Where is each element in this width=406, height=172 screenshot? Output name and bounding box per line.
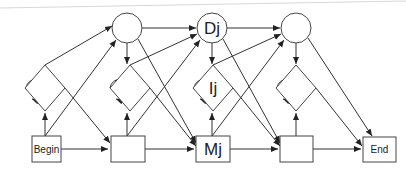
insert-state-0 bbox=[25, 65, 65, 111]
end-state-label: End bbox=[371, 144, 389, 155]
match-state-j-label: Mj bbox=[204, 140, 222, 159]
match-state-3 bbox=[280, 136, 313, 162]
insert-state-1 bbox=[110, 65, 150, 111]
delete-state-1 bbox=[112, 13, 142, 43]
profile-hmm-diagram: Dj Ij Begin Mj End bbox=[0, 0, 406, 172]
delete-state-j-label: Dj bbox=[204, 19, 220, 38]
delete-state-3 bbox=[281, 13, 311, 43]
top-border-line bbox=[0, 1, 406, 8]
insert-state-j-label: Ij bbox=[209, 79, 218, 98]
insert-state-3 bbox=[276, 65, 316, 111]
begin-state-label: Begin bbox=[34, 144, 60, 155]
match-state-1 bbox=[111, 136, 145, 162]
